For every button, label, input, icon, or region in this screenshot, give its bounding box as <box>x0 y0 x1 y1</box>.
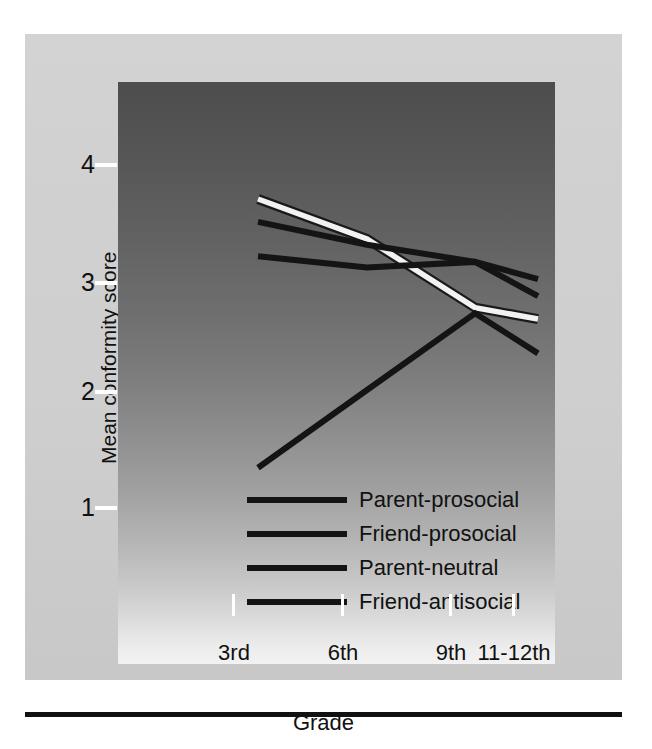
conformity-line-chart-figure: Mean conformity score 4 3 2 1 Parent-pro… <box>0 0 652 749</box>
bottom-rule <box>25 712 622 717</box>
y-tick-mark-4 <box>95 163 117 167</box>
x-tick-label-11-12th: 11-12th <box>478 642 551 664</box>
x-tick-label-3rd: 3rd <box>218 642 250 664</box>
x-tick-mark-3rd <box>232 594 235 616</box>
x-tick-mark-6th <box>341 594 344 616</box>
legend-swatch-parent-neutral <box>247 565 347 571</box>
legend-label-parent-neutral: Parent-neutral <box>359 557 498 579</box>
legend-swatch-friend-prosocial <box>247 531 347 537</box>
series-line-friend-antisocial <box>258 313 538 467</box>
legend-swatch-parent-prosocial <box>247 497 347 503</box>
y-tick-label-3: 3 <box>55 270 95 295</box>
x-tick-mark-9th <box>449 594 452 616</box>
legend-item-parent-prosocial: Parent-prosocial <box>247 486 520 514</box>
y-tick-label-2: 2 <box>55 379 95 404</box>
legend-swatch-friend-antisocial <box>247 599 347 605</box>
legend-label-friend-prosocial: Friend-prosocial <box>359 523 517 545</box>
legend-label-parent-prosocial: Parent-prosocial <box>359 489 519 511</box>
x-tick-mark-11-12th <box>512 594 515 616</box>
y-tick-mark-3 <box>95 281 117 285</box>
legend-item-parent-neutral: Parent-neutral <box>247 554 520 582</box>
y-tick-mark-1 <box>95 506 117 510</box>
x-tick-label-6th: 6th <box>328 642 359 664</box>
chart-legend: Parent-prosocial Friend-prosocial Parent… <box>247 486 520 622</box>
legend-item-friend-antisocial: Friend-antisocial <box>247 588 520 616</box>
legend-item-friend-prosocial: Friend-prosocial <box>247 520 520 548</box>
chart-panel: Mean conformity score 4 3 2 1 Parent-pro… <box>25 34 622 680</box>
y-tick-label-4: 4 <box>55 152 95 177</box>
y-tick-mark-2 <box>95 390 117 394</box>
x-tick-label-9th: 9th <box>436 642 467 664</box>
y-tick-label-1: 1 <box>55 495 95 520</box>
legend-label-friend-antisocial: Friend-antisocial <box>359 591 520 613</box>
